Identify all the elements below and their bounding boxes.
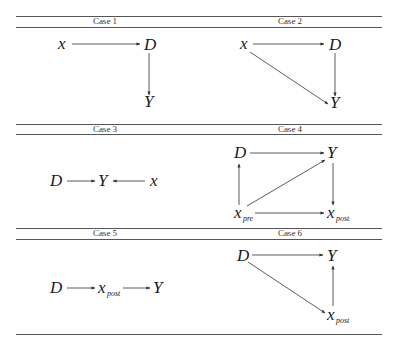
edge-x-y	[250, 52, 328, 104]
node-x-post: x post	[97, 278, 121, 298]
node-d: D	[49, 278, 63, 297]
node-y: Y	[98, 171, 109, 190]
node-x: x	[57, 34, 66, 53]
node-y: Y	[144, 92, 155, 111]
case-4-diagram: D Y x pre x post	[233, 143, 350, 223]
node-d: D	[233, 143, 247, 162]
node-d: D	[236, 246, 250, 265]
node-y: Y	[330, 93, 341, 112]
case-5-diagram: D x post Y	[49, 278, 164, 298]
node-d: D	[49, 171, 63, 190]
node-y: Y	[153, 278, 164, 297]
svg-text:post: post	[106, 289, 121, 298]
edge-xpre-y	[247, 160, 325, 206]
node-x: x	[239, 34, 248, 53]
edge-d-xpost	[248, 262, 325, 313]
dag-diagrams: x D Y x D Y D Y x D Y x pre x post	[0, 0, 395, 346]
case-2-diagram: x D Y	[239, 34, 342, 112]
node-y: Y	[327, 143, 338, 162]
node-d: D	[328, 35, 342, 54]
case-1-diagram: x D Y	[57, 34, 157, 111]
node-y: Y	[327, 246, 338, 265]
node-x: x	[149, 171, 158, 190]
svg-text:x: x	[326, 305, 335, 324]
svg-text:x: x	[97, 278, 106, 297]
node-d: D	[143, 35, 157, 54]
node-x-post: x post	[326, 203, 350, 223]
node-x-pre: x pre	[233, 203, 254, 223]
node-x-post: x post	[326, 305, 350, 325]
svg-text:x: x	[233, 203, 242, 222]
svg-text:post: post	[335, 214, 350, 223]
svg-text:post: post	[335, 316, 350, 325]
case-6-diagram: D Y x post	[236, 246, 350, 325]
case-3-diagram: D Y x	[49, 171, 158, 190]
svg-text:x: x	[326, 203, 335, 222]
svg-text:pre: pre	[242, 214, 254, 223]
